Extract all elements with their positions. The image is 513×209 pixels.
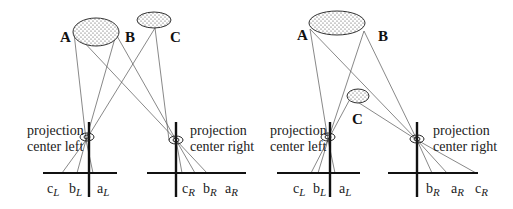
left-panel: A B C projection center left projection … (27, 12, 254, 198)
label-b: B (378, 28, 388, 44)
object-c-ellipse (137, 12, 171, 28)
caption-center-left-2: center left (270, 139, 326, 154)
image-label-al: aL (339, 181, 351, 198)
label-c: C (170, 29, 181, 45)
image-label-br: bR (426, 181, 440, 198)
caption-center-right-1: projection (190, 123, 247, 138)
image-label-cr: cR (475, 181, 488, 198)
object-ab-ellipse (309, 11, 365, 35)
object-c-ellipse (347, 89, 369, 103)
label-a: A (297, 27, 308, 43)
caption-center-left-1: projection (27, 123, 84, 138)
rays-right-center (80, 28, 207, 173)
label-a: A (60, 29, 71, 45)
image-label-br: bR (203, 181, 217, 198)
image-label-cl: cL (293, 181, 305, 198)
image-label-al: aL (97, 181, 109, 198)
image-label-cr: cR (182, 181, 195, 198)
label-c: C (352, 111, 363, 127)
image-label-bl: bL (313, 181, 326, 198)
image-label-ar: aR (451, 181, 464, 198)
caption-center-left-1: projection (270, 123, 327, 138)
image-label-cl: cL (47, 181, 59, 198)
label-b: B (125, 29, 135, 45)
caption-center-left-2: center left (27, 139, 83, 154)
image-label-bl: bL (69, 181, 82, 198)
caption-center-right-2: center right (433, 139, 497, 154)
right-panel: A B C projection center left projection … (270, 11, 497, 198)
stereo-projection-diagram: A B C projection center left projection … (0, 0, 513, 209)
object-ab-ellipse (73, 18, 119, 46)
caption-center-right-2: center right (190, 139, 254, 154)
caption-center-right-1: projection (433, 123, 490, 138)
image-label-ar: aR (225, 181, 238, 198)
